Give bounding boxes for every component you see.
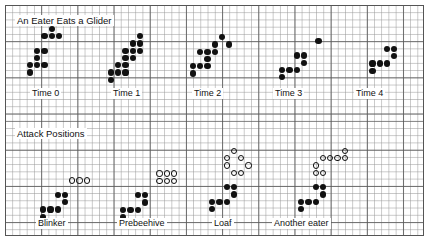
life-cell-open — [164, 170, 170, 176]
life-cell-alive — [122, 69, 128, 75]
life-cell-alive — [108, 69, 114, 75]
life-cell-open — [342, 148, 348, 154]
life-cell-alive — [377, 60, 383, 66]
section-divider — [6, 121, 423, 122]
figure-title: An Eater Eats a Glider — [15, 15, 114, 26]
life-cell-alive — [301, 52, 307, 58]
frame-label-blinker: Blinker — [36, 218, 68, 229]
life-cell-alive — [130, 48, 136, 54]
life-cell-open — [224, 162, 230, 168]
life-cell-alive — [301, 60, 307, 66]
life-cell-open — [245, 162, 251, 168]
life-cell-open — [171, 178, 177, 184]
frame-label-time-4: Time 4 — [354, 88, 385, 99]
life-cell-open — [76, 177, 82, 183]
life-cell-alive — [226, 41, 232, 47]
life-cell-open — [313, 170, 319, 176]
life-cell-alive — [216, 199, 222, 205]
life-cell-open — [320, 170, 326, 176]
life-cell-alive — [41, 62, 47, 68]
life-cell-alive — [27, 69, 33, 75]
life-cell-alive — [55, 192, 61, 198]
life-cell-alive — [142, 199, 148, 205]
life-cell-alive — [369, 68, 375, 74]
life-cell-open — [171, 170, 177, 176]
life-cell-alive — [130, 40, 136, 46]
life-cell-alive — [190, 70, 196, 76]
life-cell-alive — [384, 60, 390, 66]
life-cell-open — [231, 170, 237, 176]
frame-label-another-eater: Another eater — [272, 218, 331, 229]
figure-canvas: An Eater Eats a Glider Attack Positions … — [0, 0, 430, 243]
life-cell-alive — [204, 63, 210, 69]
life-cell-open — [164, 178, 170, 184]
figure-frame: An Eater Eats a Glider Attack Positions … — [5, 5, 424, 236]
life-cell-alive — [320, 191, 326, 197]
life-cell-alive — [204, 49, 210, 55]
frame-label-time-0: Time 0 — [30, 88, 61, 99]
life-cell-alive — [286, 67, 292, 73]
frame-label-time-3: Time 3 — [273, 88, 304, 99]
section-title-attack-positions: Attack Positions — [15, 128, 87, 139]
life-cell-alive — [130, 55, 136, 61]
life-cell-alive — [294, 67, 300, 73]
frame-label-prebeehive: Prebeehive — [117, 218, 167, 229]
frame-label-time-1: Time 1 — [111, 88, 142, 99]
life-cell-alive — [294, 52, 300, 58]
life-cell-alive — [41, 48, 47, 54]
life-cell-alive — [212, 41, 218, 47]
life-cell-alive — [369, 60, 375, 66]
life-cell-alive — [137, 40, 143, 46]
life-cell-alive — [137, 48, 143, 54]
life-cell-open — [313, 162, 319, 168]
life-cell-open — [84, 177, 90, 183]
life-cell-alive — [305, 199, 311, 205]
life-cell-alive — [135, 207, 141, 213]
life-cell-alive — [204, 56, 210, 62]
life-cell-open — [156, 170, 162, 176]
life-cell-alive — [231, 191, 237, 197]
life-cell-alive — [49, 26, 55, 32]
life-cell-alive — [55, 206, 61, 212]
life-cell-alive — [122, 48, 128, 54]
life-cell-alive — [108, 77, 114, 83]
life-cell-alive — [212, 49, 218, 55]
life-cell-alive — [122, 55, 128, 61]
life-cell-open — [156, 178, 162, 184]
life-cell-alive — [127, 207, 133, 213]
life-cell-alive — [224, 199, 230, 205]
frame-label-loaf: Loaf — [212, 218, 234, 229]
life-cell-open — [69, 177, 75, 183]
life-cell-alive — [47, 206, 53, 212]
life-cell-alive — [313, 199, 319, 205]
life-cell-alive — [122, 62, 128, 68]
frame-label-time-2: Time 2 — [192, 88, 223, 99]
life-cell-alive — [315, 38, 321, 44]
